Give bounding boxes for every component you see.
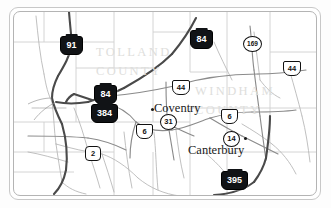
route-number-ct31: 31	[164, 118, 172, 126]
route-number-us44-center: 44	[177, 84, 185, 92]
route-shield-i395[interactable]: 395	[221, 171, 248, 190]
map-frame-inner: TOLLAND COUNTY WINDHAM COUNTY Coventry C…	[13, 11, 317, 196]
route-shield-us44-center[interactable]: 44	[172, 80, 190, 95]
route-number-i384: 384	[97, 109, 112, 118]
city-marker-canterbury[interactable]	[244, 137, 247, 140]
map-widget[interactable]: TOLLAND COUNTY WINDHAM COUNTY Coventry C…	[0, 0, 331, 208]
route-number-i91: 91	[66, 41, 76, 50]
route-number-us6-west: 6	[142, 128, 146, 136]
route-shield-i84-north[interactable]: 84	[190, 30, 213, 49]
city-label-coventry[interactable]: Coventry	[154, 101, 201, 116]
route-number-i84-north: 84	[196, 35, 206, 44]
i395-segment	[254, 158, 266, 182]
route-shield-us6-west[interactable]: 6	[136, 124, 153, 139]
route-number-ct169: 169	[247, 41, 258, 48]
route-shield-ct14[interactable]: 14	[223, 131, 240, 147]
route-shield-i91[interactable]: 91	[60, 36, 83, 55]
route-shield-ct2[interactable]: 2	[85, 146, 101, 161]
route-shield-i384[interactable]: 384	[91, 104, 118, 123]
route-number-i84-west: 84	[100, 90, 110, 99]
route-number-i395: 395	[227, 176, 242, 185]
route-number-ct2: 2	[91, 150, 95, 158]
route-shield-ct31[interactable]: 31	[160, 114, 177, 130]
route-number-ct14: 14	[227, 135, 235, 143]
route-shield-us6-east[interactable]: 6	[221, 109, 238, 124]
route-shield-us44-east[interactable]: 44	[283, 61, 301, 76]
route-number-us44-east: 44	[288, 65, 296, 73]
route-number-us6-east: 6	[227, 113, 231, 121]
route-shield-ct169[interactable]: 169	[243, 36, 262, 52]
